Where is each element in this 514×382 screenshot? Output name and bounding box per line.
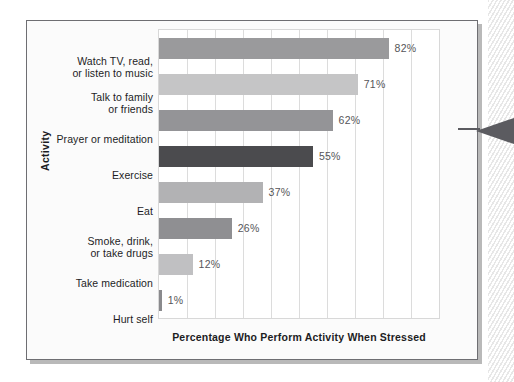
bar-value-label: 55% xyxy=(319,150,341,162)
category-label: Hurt self xyxy=(35,313,153,326)
bar xyxy=(159,74,358,95)
x-axis-title: Percentage Who Perform Activity When Str… xyxy=(158,331,440,343)
chart-frame: Activity Watch TV, read,or listen to mus… xyxy=(26,20,478,360)
bar-row: 12% xyxy=(159,246,439,282)
category-label: Smoke, drink,or take drugs xyxy=(35,235,153,260)
bar xyxy=(159,218,232,239)
bar xyxy=(159,254,193,275)
bar-row: 1% xyxy=(159,282,439,318)
bar-row: 82% xyxy=(159,30,439,66)
bar xyxy=(159,182,263,203)
bar-value-label: 82% xyxy=(395,42,417,54)
category-label-group: Watch TV, read,or listen to musicTalk to… xyxy=(35,49,153,339)
bar-value-label: 12% xyxy=(199,258,221,270)
category-label: Watch TV, read,or listen to music xyxy=(35,55,153,80)
bar-value-label: 1% xyxy=(168,294,184,306)
category-label: Talk to familyor friends xyxy=(35,91,153,116)
bar-row: 26% xyxy=(159,210,439,246)
bar-group: 82%71%62%55%37%26%12%1% xyxy=(159,30,439,318)
bar-value-label: 62% xyxy=(339,114,361,126)
page-edge-strip xyxy=(488,0,514,382)
bar xyxy=(159,146,313,167)
plot-area: 82%71%62%55%37%26%12%1% xyxy=(158,29,440,319)
category-label: Take medication xyxy=(35,277,153,290)
bar-row: 71% xyxy=(159,66,439,102)
callout-arrow-icon xyxy=(476,118,514,144)
category-label: Eat xyxy=(35,205,153,218)
figure-root: Activity Watch TV, read,or listen to mus… xyxy=(0,0,514,382)
bar-row: 55% xyxy=(159,138,439,174)
bar xyxy=(159,38,389,59)
bar-value-label: 26% xyxy=(238,222,260,234)
bar-row: 62% xyxy=(159,102,439,138)
category-label: Exercise xyxy=(35,169,153,182)
category-label: Prayer or meditation xyxy=(35,133,153,146)
bar xyxy=(159,110,333,131)
bar-row: 37% xyxy=(159,174,439,210)
bar-value-label: 37% xyxy=(269,186,291,198)
bar xyxy=(159,290,162,311)
bar-value-label: 71% xyxy=(364,78,386,90)
